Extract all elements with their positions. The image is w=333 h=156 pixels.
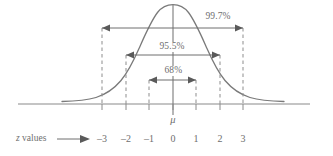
normal-distribution-figure: 99.7% 95.5% 68% μ z values –3 –2 –1 0 1 … <box>0 0 333 156</box>
arrow-head-997-left <box>102 25 110 32</box>
arrow-head-68-left <box>149 77 157 84</box>
tick-label-zero: 0 <box>163 134 183 144</box>
distribution-plot-svg <box>0 0 333 156</box>
tick-label-neg1: –1 <box>139 134 159 144</box>
label-68: 68% <box>163 66 184 76</box>
label-997: 99.7% <box>204 12 232 22</box>
tick-label-neg2: –2 <box>116 134 136 144</box>
tick-label-pos3: 3 <box>233 134 253 144</box>
arrow-head-997-right <box>235 25 243 32</box>
tick-label-pos1: 1 <box>186 134 206 144</box>
tick-label-pos2: 2 <box>210 134 230 144</box>
mean-symbol-label: μ <box>165 115 181 126</box>
arrow-head-955-left <box>126 52 134 59</box>
label-955: 95.5% <box>158 42 186 52</box>
arrow-head-68-right <box>188 77 196 84</box>
tick-label-neg3: –3 <box>92 134 112 144</box>
axis-name-label: z values <box>16 134 46 144</box>
z-values-pointer-arrow-icon <box>80 135 90 143</box>
arrow-head-955-right <box>212 52 220 59</box>
axis-name-rest: values <box>20 133 47 143</box>
